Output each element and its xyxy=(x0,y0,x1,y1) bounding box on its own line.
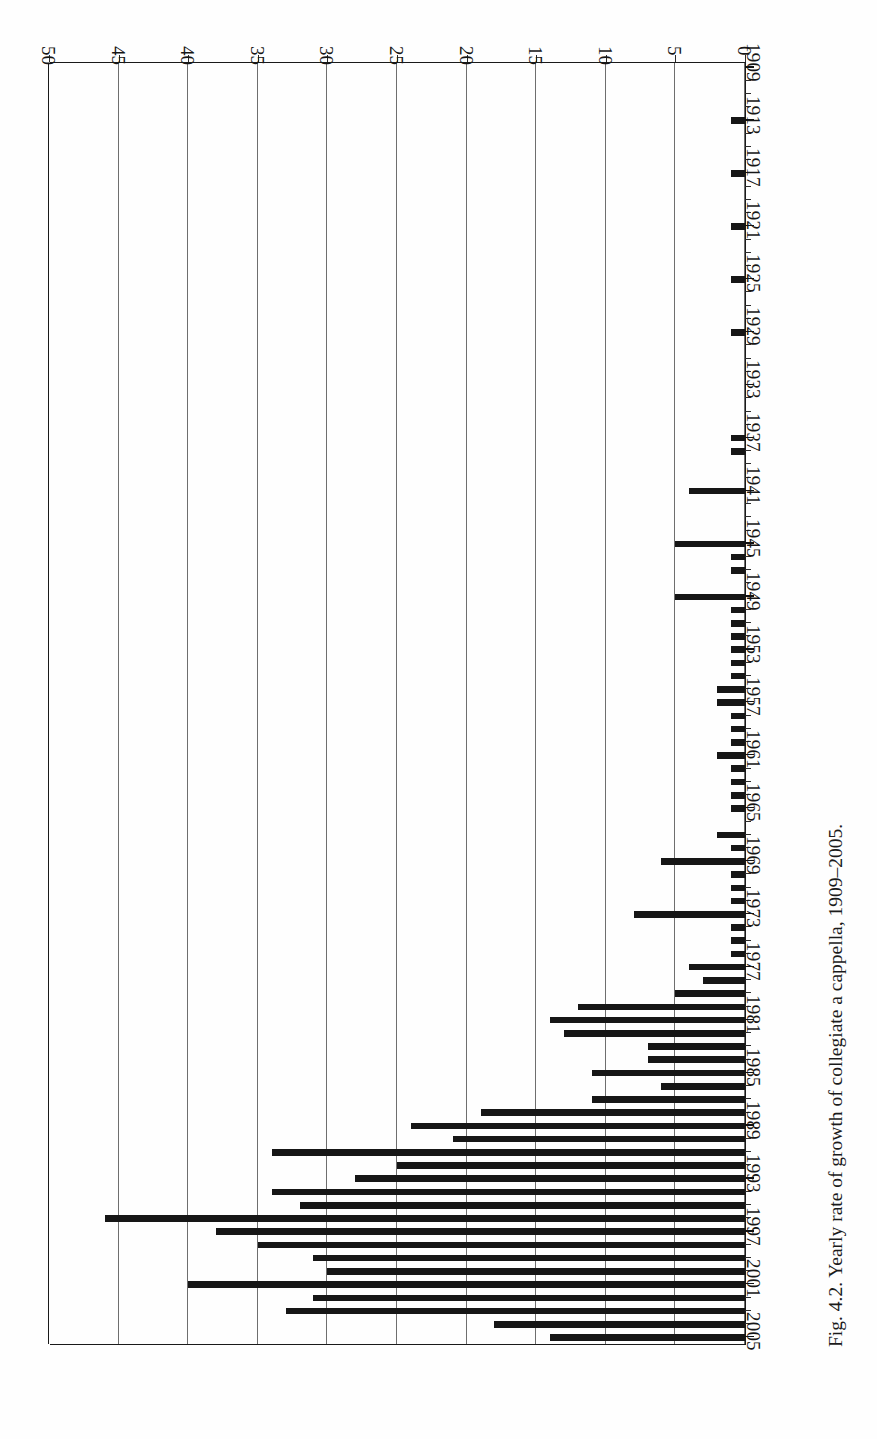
category-label-2001: 2001 xyxy=(742,1259,764,1298)
bar-row xyxy=(50,1000,745,1013)
bar xyxy=(689,964,745,971)
bar-row xyxy=(50,1119,745,1132)
bar xyxy=(578,1004,745,1011)
bar-row xyxy=(50,1265,745,1278)
bar-row xyxy=(50,788,745,801)
bar xyxy=(689,488,745,495)
bar-row xyxy=(50,960,745,973)
bar-row xyxy=(50,498,745,511)
bar-row xyxy=(50,696,745,709)
bar-row xyxy=(50,339,745,352)
category-label-1997: 1997 xyxy=(742,1207,764,1246)
bar xyxy=(355,1176,745,1183)
bar-row xyxy=(50,101,745,114)
category-label-1993: 1993 xyxy=(742,1154,764,1193)
bar-row xyxy=(50,193,745,206)
bar-row xyxy=(50,974,745,987)
category-label-1985: 1985 xyxy=(742,1048,764,1087)
category-label-1909: 1909 xyxy=(742,43,764,82)
bar-row xyxy=(50,643,745,656)
bar-row xyxy=(50,1212,745,1225)
category-label-1945: 1945 xyxy=(742,519,764,558)
category-tick xyxy=(745,993,751,994)
bar xyxy=(411,1123,745,1130)
bar-row xyxy=(50,87,745,100)
bar-row xyxy=(50,273,745,286)
category-tick xyxy=(745,569,751,570)
bar-row xyxy=(50,1225,745,1238)
bar-chart: 05101520253035404550 1909191319171921192… xyxy=(0,0,790,1439)
value-label-15: 15 xyxy=(524,46,546,65)
bar-row xyxy=(50,855,745,868)
bar-row xyxy=(50,1278,745,1291)
bar-row xyxy=(50,1304,745,1317)
bar xyxy=(648,1056,745,1063)
value-label-30: 30 xyxy=(315,46,337,65)
bar-series xyxy=(50,63,745,1344)
bar-row xyxy=(50,1318,745,1331)
bar-row xyxy=(50,1093,745,1106)
bar-row xyxy=(50,299,745,312)
bar-row xyxy=(50,1132,745,1145)
category-label-1933: 1933 xyxy=(742,360,764,399)
bar-row xyxy=(50,445,745,458)
bar-row xyxy=(50,378,745,391)
bar xyxy=(717,752,745,759)
bar xyxy=(286,1308,745,1315)
category-label-1913: 1913 xyxy=(742,96,764,135)
category-tick xyxy=(745,252,751,253)
bar-row xyxy=(50,140,745,153)
bar xyxy=(300,1202,745,1209)
bar-row xyxy=(50,1251,745,1264)
bar-row xyxy=(50,1079,745,1092)
bar-row xyxy=(50,564,745,577)
bar xyxy=(494,1321,745,1328)
category-tick xyxy=(745,781,751,782)
value-label-40: 40 xyxy=(176,46,198,65)
category-label-1965: 1965 xyxy=(742,783,764,822)
bar-row xyxy=(50,617,745,630)
bar xyxy=(717,832,745,839)
value-label-20: 20 xyxy=(455,46,477,65)
bar xyxy=(634,911,745,918)
bar xyxy=(327,1268,745,1275)
bar-row xyxy=(50,656,745,669)
bar xyxy=(717,699,745,706)
bar-row xyxy=(50,1027,745,1040)
bar-row xyxy=(50,365,745,378)
bar-row xyxy=(50,722,745,735)
category-label-1961: 1961 xyxy=(742,730,764,769)
category-tick xyxy=(745,1098,751,1099)
category-label-1981: 1981 xyxy=(742,995,764,1034)
bar xyxy=(397,1162,745,1169)
category-label-1957: 1957 xyxy=(742,678,764,717)
bar-row xyxy=(50,1146,745,1159)
figure-caption: Fig. 4.2. Yearly rate of growth of colle… xyxy=(817,0,863,1439)
figure-page: 05101520253035404550 1909191319171921192… xyxy=(0,0,877,1439)
category-tick xyxy=(745,516,751,517)
rotated-figure-container: 05101520253035404550 1909191319171921192… xyxy=(0,0,790,1439)
value-label-10: 10 xyxy=(594,46,616,65)
bar xyxy=(313,1295,745,1302)
bar-row xyxy=(50,471,745,484)
bar xyxy=(188,1281,745,1288)
value-label-5: 5 xyxy=(663,46,685,56)
bar-row xyxy=(50,524,745,537)
bar-row xyxy=(50,749,745,762)
bar-row xyxy=(50,1172,745,1185)
bar-row xyxy=(50,828,745,841)
bar-row xyxy=(50,683,745,696)
bar xyxy=(564,1030,745,1037)
category-tick xyxy=(745,463,751,464)
bar xyxy=(550,1334,745,1341)
bar-row xyxy=(50,352,745,365)
category-tick xyxy=(745,305,751,306)
bar xyxy=(717,686,745,693)
bar-row xyxy=(50,392,745,405)
bar-row xyxy=(50,511,745,524)
bar-row xyxy=(50,431,745,444)
bar-row xyxy=(50,802,745,815)
bar xyxy=(592,1070,745,1077)
bar-row xyxy=(50,1013,745,1026)
bar xyxy=(675,990,745,997)
